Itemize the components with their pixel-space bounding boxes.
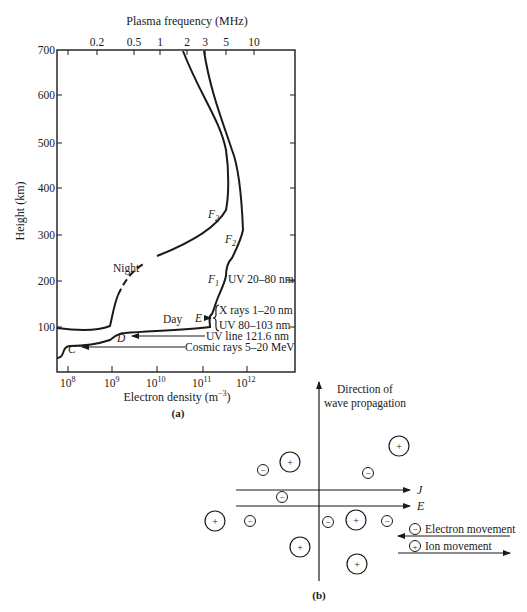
legend-ion-label: Ion movement — [425, 540, 493, 552]
top-tick-label: 5 — [223, 36, 229, 48]
day-label: Day — [163, 313, 182, 326]
figure-a: Plasma frequency (MHz) 0.2 0.5 1 2 3 5 1… — [13, 14, 295, 420]
e-layer-label: E — [194, 312, 202, 324]
caption-b: (b) — [312, 589, 326, 602]
caption-a: (a) — [172, 407, 185, 420]
direction-label: wave propagation — [324, 397, 406, 410]
y-tick-label: 100 — [38, 321, 56, 333]
figure-b: Direction of wave propagation J E + + + … — [205, 382, 516, 602]
x-tick-label: 1010 — [146, 375, 166, 389]
y-tick-label: 600 — [38, 89, 56, 101]
ion-icon: + — [297, 542, 303, 553]
f2-night-label: F2 — [207, 208, 219, 223]
f2-day-label: F2 — [224, 233, 236, 248]
ion-icon: + — [287, 457, 293, 468]
y-tick-label: 500 — [38, 137, 56, 149]
y-tick-label: 400 — [38, 182, 56, 194]
electron-icon: − — [279, 492, 284, 502]
cosmic-annotation: Cosmic rays 5–20 MeV — [185, 341, 295, 354]
x-tick-label: 108 — [60, 375, 76, 389]
x-tick-label: 1011 — [192, 375, 211, 389]
svg-text:+: + — [412, 542, 417, 552]
y-tick-label: 700 — [38, 44, 56, 56]
xrays-annotation: X rays 1–20 nm — [219, 304, 293, 317]
f1-label: F1 — [207, 273, 219, 288]
night-label: Night — [113, 262, 140, 275]
y-tick-label: 200 — [38, 275, 56, 287]
x-tick-label: 1012 — [236, 375, 256, 389]
electron-icon: − — [384, 516, 389, 526]
electron-icon: − — [247, 516, 252, 526]
e-field-label: E — [416, 499, 425, 513]
top-tick-label: 3 — [202, 36, 208, 48]
x-axis-title: Electron density (m−3) — [123, 389, 230, 404]
svg-text:−: − — [412, 524, 417, 534]
ion-icon: + — [353, 515, 359, 526]
day-curve — [57, 51, 243, 358]
electron-icon: − — [365, 468, 370, 478]
electron-icon: − — [325, 517, 330, 527]
ion-icon: + — [396, 441, 402, 452]
uv-20-80-annotation: UV 20–80 nm — [228, 273, 294, 285]
legend-electron-label: Electron movement — [425, 523, 516, 535]
d-layer-label: D — [116, 332, 126, 344]
c-layer-label: C — [68, 343, 76, 355]
top-tick-label: 0.5 — [127, 36, 142, 48]
j-label: J — [417, 483, 423, 497]
ion-icon: + — [212, 516, 218, 527]
figure-canvas: Plasma frequency (MHz) 0.2 0.5 1 2 3 5 1… — [0, 0, 527, 612]
top-axis-title: Plasma frequency (MHz) — [126, 14, 247, 28]
night-curve — [57, 51, 228, 330]
top-tick-label: 10 — [248, 36, 260, 48]
top-tick-label: 1 — [157, 36, 163, 48]
x-tick-label: 109 — [104, 375, 120, 389]
top-tick-label: 0.2 — [90, 36, 105, 48]
y-axis-title: Height (km) — [13, 182, 27, 241]
top-tick-label: 2 — [184, 36, 190, 48]
direction-label: Direction of — [337, 383, 393, 395]
electron-icon: − — [260, 465, 265, 475]
ion-icon: + — [354, 559, 360, 570]
y-tick-label: 300 — [38, 229, 56, 241]
